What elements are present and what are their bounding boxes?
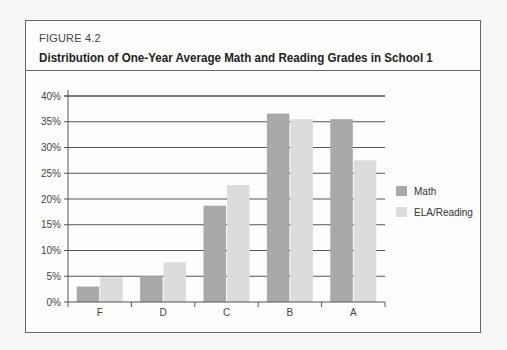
x-tick-label: A	[350, 307, 357, 318]
y-tick-label: 20%	[41, 194, 61, 205]
y-tick-label: 10%	[41, 245, 61, 256]
bar-math-f	[77, 287, 100, 302]
bar-ela-f	[100, 277, 123, 302]
legend-label: ELA/Reading	[414, 207, 473, 218]
legend-label: Math	[414, 186, 436, 197]
legend: MathELA/Reading	[396, 186, 473, 218]
x-tick-label: D	[159, 307, 166, 318]
bar-math-d	[140, 276, 163, 302]
x-tick-label: F	[97, 307, 103, 318]
y-tick-label: 5%	[47, 271, 62, 282]
y-axis-labels: 0%5%10%15%20%25%30%35%40%	[41, 91, 61, 308]
bar-chart: 0%5%10%15%20%25%30%35%40% FDCBA MathELA/…	[0, 0, 507, 350]
y-tick-label: 40%	[41, 91, 61, 102]
bar-ela-b	[290, 119, 313, 302]
bar-math-c	[204, 206, 227, 302]
x-tick-label: C	[223, 307, 230, 318]
bars	[77, 114, 377, 302]
bar-math-a	[330, 119, 353, 302]
x-tick-label: B	[287, 307, 294, 318]
bar-ela-c	[227, 185, 250, 302]
x-axis-labels: FDCBA	[97, 307, 357, 318]
y-tick-label: 25%	[41, 168, 61, 179]
bar-ela-d	[164, 262, 187, 302]
y-tick-label: 35%	[41, 116, 61, 127]
y-tick-label: 30%	[41, 142, 61, 153]
legend-swatch-ela	[396, 207, 407, 217]
y-tick-label: 0%	[47, 297, 62, 308]
bar-ela-a	[354, 160, 377, 302]
bar-math-b	[267, 114, 290, 302]
legend-swatch-math	[396, 186, 407, 196]
y-tick-label: 15%	[41, 219, 61, 230]
